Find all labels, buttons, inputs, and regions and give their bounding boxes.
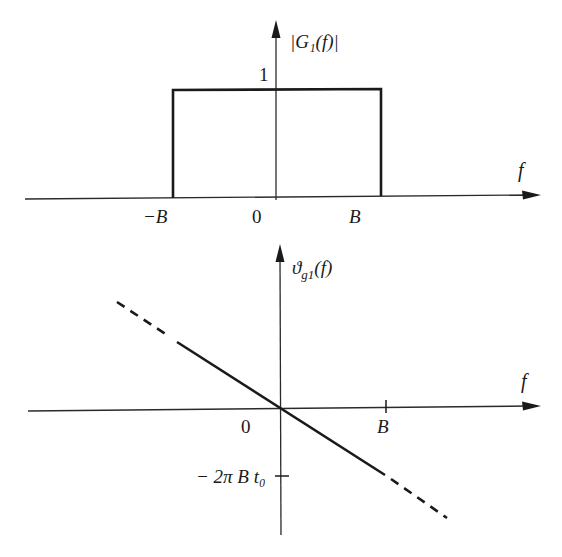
- bottom-f-label: f: [521, 370, 529, 393]
- magnitude-plot: |G₁(f)| 1 f −B 0 B: [25, 20, 541, 227]
- bottom-y-axis: [280, 256, 281, 535]
- top-f-label: f: [518, 159, 526, 182]
- top-level-label: 1: [259, 64, 269, 85]
- bottom-tick-zero: 0: [241, 416, 251, 437]
- top-tick-pos-b: B: [349, 206, 361, 227]
- bottom-tick-phase: − 2π B t₀: [196, 466, 266, 487]
- phase-line-dashed-left: [117, 302, 170, 337]
- bottom-y-label-sub: g1: [301, 267, 314, 282]
- phase-line-dashed-right: [391, 479, 447, 518]
- phase-plot: ϑg1(f) f 0 B − 2π B t₀: [28, 244, 541, 535]
- top-f-axis-arrow-icon: [522, 191, 541, 200]
- magnitude-rectangle: [173, 89, 381, 198]
- bottom-f-axis-arrow-icon: [522, 402, 541, 411]
- top-y-axis-arrow-icon: [272, 20, 281, 38]
- linear-phase-lowpass-diagram: |G₁(f)| 1 f −B 0 B ϑg1(f) f 0 B − 2π B t…: [0, 0, 562, 557]
- bottom-tick-pos-b: B: [377, 416, 389, 437]
- bottom-y-label: ϑg1(f): [292, 257, 332, 282]
- top-f-axis: [25, 195, 530, 199]
- top-tick-zero: 0: [252, 206, 262, 227]
- bottom-y-label-arg: (f): [314, 257, 332, 279]
- top-tick-neg-b: −B: [143, 206, 168, 227]
- top-y-label: |G₁(f)|: [290, 31, 339, 53]
- bottom-y-axis-arrow-icon: [276, 244, 285, 262]
